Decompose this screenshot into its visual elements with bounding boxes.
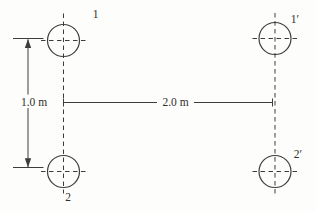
conductor-2-prime-label: 2′ <box>294 148 302 160</box>
diagram-svg: 1.0 m 2.0 m 1 1′ 2 2′ <box>0 0 316 212</box>
conductor-spacing-diagram: 1.0 m 2.0 m 1 1′ 2 2′ <box>0 0 316 212</box>
conductor-2-label: 2 <box>65 191 71 203</box>
conductor-1-label: 1 <box>93 8 99 20</box>
horizontal-dimension-label: 2.0 m <box>162 96 188 108</box>
conductor-1-prime-label: 1′ <box>291 13 299 25</box>
vertical-dimension-label: 1.0 m <box>21 96 47 108</box>
